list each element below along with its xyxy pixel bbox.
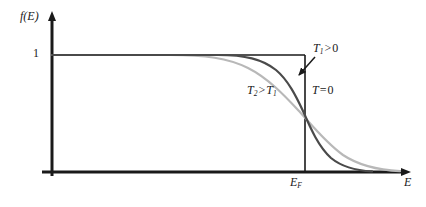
y-axis-tick-one: 1 [33, 47, 39, 59]
curve-t2-higher-temperature [52, 55, 400, 171]
annotation-label-t2: T2>T1 [247, 84, 277, 96]
x-axis-label: E [404, 176, 411, 188]
annotation-label-t1: T1>0 [313, 42, 338, 54]
plot-canvas [0, 0, 426, 207]
y-axis-label: f(E) [20, 10, 39, 22]
annotation-arrow-t1 [299, 57, 315, 75]
annotation-label-t0: T=0 [312, 84, 333, 96]
x-axis-tick-fermi-energy: EF [290, 176, 302, 188]
curve-t1-finite-temperature [52, 55, 372, 171]
fermi-dirac-figure: f(E) 1 T1>0 T2>T1 T=0 EF E [0, 0, 426, 207]
